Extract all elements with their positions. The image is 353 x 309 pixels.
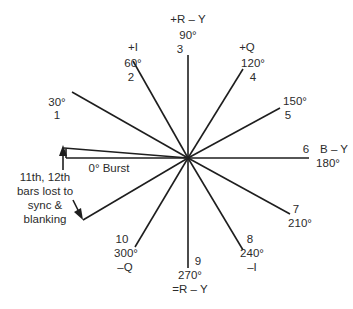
label-bar-1: 1 <box>42 108 72 122</box>
label-bar-9: 9 <box>190 254 206 268</box>
label-angle-300: 300° <box>106 246 146 260</box>
vector-210 <box>188 158 290 214</box>
label-axis-60: +I <box>118 40 148 54</box>
label-angle-60: 60° <box>118 56 148 70</box>
label-axis-90: +R – Y <box>168 12 208 26</box>
label-angle-90: 90° <box>168 28 208 42</box>
label-bar-7: 7 <box>288 202 304 216</box>
burst-line-upper <box>64 148 188 158</box>
label-axis-270: =R – Y <box>166 282 214 296</box>
burst-label: 0° Burst <box>78 161 140 175</box>
label-angle-120: 120° <box>235 56 271 70</box>
label-angle-30: 30° <box>42 95 72 109</box>
vector-120 <box>188 69 243 158</box>
label-axis-240: –I <box>240 260 264 274</box>
label-bar-2: 2 <box>118 70 144 84</box>
label-axis-180: B – Y <box>314 142 353 156</box>
label-bar-4: 4 <box>245 70 261 84</box>
label-angle-210: 210° <box>280 216 320 230</box>
label-angle-270: 270° <box>170 268 210 282</box>
label-bar-5: 5 <box>280 108 296 122</box>
label-bar-10: 10 <box>112 232 132 246</box>
label-axis-120: +Q <box>232 40 262 54</box>
label-bar-6: 6 <box>300 142 312 156</box>
vector-150 <box>188 108 280 158</box>
label-angle-240: 240° <box>232 246 272 260</box>
vector-30 <box>72 92 188 158</box>
label-angle-150: 150° <box>277 94 313 108</box>
vector-240 <box>188 158 243 250</box>
label-axis-300: –Q <box>112 260 138 274</box>
label-angle-180: 180° <box>308 156 348 170</box>
label-bar-8: 8 <box>242 232 258 246</box>
lost-bars-note: 11th, 12th bars lost to sync & blanking <box>12 170 78 226</box>
vector-300 <box>135 158 188 247</box>
label-bar-3: 3 <box>174 42 186 56</box>
